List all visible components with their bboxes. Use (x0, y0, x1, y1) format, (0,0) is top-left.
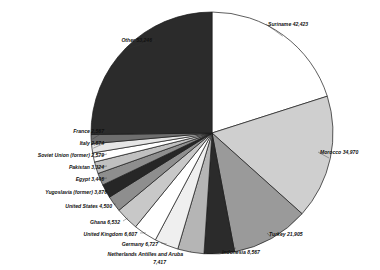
slice-label-morocco: Morocco 34,970 (320, 149, 358, 155)
slice-label-netherlands-antilles-line2: 7,417 (153, 259, 167, 265)
pie-chart-figure: Suriname 42,423 Morocco 34,970 Turkey 21… (0, 0, 380, 270)
slice-label-germany: Germany 6,727 (122, 241, 159, 247)
slice-label-united-kingdom: United Kingdom 6,607 (84, 231, 139, 237)
pie-chart-svg: Suriname 42,423 Morocco 34,970 Turkey 21… (0, 0, 380, 270)
slice-label-united-states: United States 4,500 (65, 203, 112, 209)
slice-label-yugoslavia: Yugoslavia (former) 3,876 (45, 189, 107, 195)
slice-label-other: Other 53,246 (121, 37, 152, 43)
slice-label-suriname: Suriname 42,423 (268, 21, 308, 27)
slice-label-indonesia: Indonesia 8,567 (222, 249, 261, 255)
slice-label-soviet-union: Soviet Union (former) 2,579 (38, 152, 104, 158)
slice-label-italy: Italy 2,574 (80, 140, 105, 146)
pie-slice (91, 12, 212, 135)
slice-label-ghana: Ghana 6,532 (90, 219, 120, 225)
slice-label-egypt: Egypt 3,446 (76, 176, 104, 182)
slice-label-pakistan: Pakistan 3,324 (69, 164, 104, 170)
slice-label-turkey: Turkey 21,905 (269, 231, 303, 237)
pie-slices-group (91, 12, 333, 254)
slice-label-france: France 2,567 (73, 128, 105, 134)
slice-label-netherlands-antilles-line1: Netherlands Antilles and Aruba (108, 251, 184, 257)
